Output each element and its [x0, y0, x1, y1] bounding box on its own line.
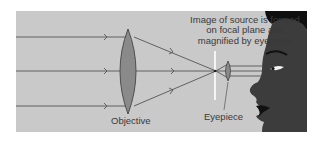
pupil	[271, 67, 274, 70]
caption-line-3: magnified by eyepiece	[186, 36, 304, 46]
eyepiece-label: Eyepiece	[204, 112, 243, 123]
caption-text: Image of source is formed on focal plane…	[186, 15, 304, 46]
focal-point	[214, 70, 217, 73]
objective-label: Objective	[111, 116, 151, 127]
